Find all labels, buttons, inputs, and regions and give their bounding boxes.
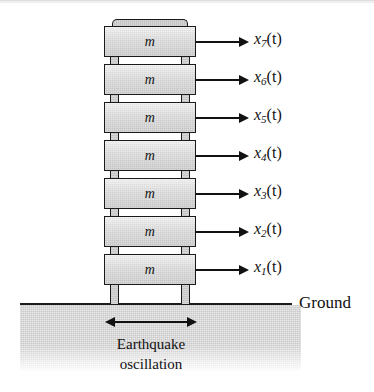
disp-arg-1: (t) <box>267 258 282 275</box>
ground-label: Ground <box>299 293 351 313</box>
column-right-base <box>181 285 190 304</box>
disp-arg-6: (t) <box>267 68 282 85</box>
mass-block-4: m <box>104 140 196 171</box>
arrow-head-3 <box>239 189 249 199</box>
ground-line <box>20 303 292 305</box>
disp-arg-2: (t) <box>267 220 282 237</box>
earthquake-oscillation-arrow <box>105 321 197 323</box>
roof-cap <box>112 19 188 26</box>
arrow-head-5 <box>239 113 249 123</box>
mass-label-1: m <box>105 261 195 277</box>
mass-label-4: m <box>105 147 195 163</box>
arrow-shaft-3 <box>196 193 241 195</box>
mass-block-5: m <box>104 102 196 133</box>
arrow-shaft-5 <box>196 117 241 119</box>
caption-line-1: Earthquake <box>76 334 226 354</box>
mass-label-3: m <box>105 185 195 201</box>
arrow-shaft-2 <box>196 231 241 233</box>
disp-arg-7: (t) <box>267 30 282 47</box>
displacement-label-1: x1(t) <box>254 258 282 277</box>
scan-edge-artifact <box>0 0 374 3</box>
earthquake-arrow-shaft <box>112 321 190 323</box>
arrow-shaft-1 <box>196 269 241 271</box>
mass-block-6: m <box>104 64 196 95</box>
arrow-head-2 <box>239 227 249 237</box>
arrow-shaft-6 <box>196 79 241 81</box>
arrow-head-1 <box>239 265 249 275</box>
disp-arg-4: (t) <box>267 144 282 161</box>
disp-arg-3: (t) <box>267 182 282 199</box>
displacement-label-2: x2(t) <box>254 220 282 239</box>
mass-block-2: m <box>104 216 196 247</box>
arrow-head-7 <box>239 37 249 47</box>
arrow-head-6 <box>239 75 249 85</box>
arrow-head-4 <box>239 151 249 161</box>
earthquake-building-diagram: Ground m m m <box>0 0 374 392</box>
displacement-label-7: x7(t) <box>254 30 282 49</box>
mass-block-3: m <box>104 178 196 209</box>
mass-label-6: m <box>105 71 195 87</box>
earthquake-oscillation-caption: Earthquake oscillation <box>76 334 226 374</box>
displacement-label-3: x3(t) <box>254 182 282 201</box>
mass-label-5: m <box>105 109 195 125</box>
arrow-shaft-4 <box>196 155 241 157</box>
mass-block-7: m <box>104 26 196 57</box>
displacement-label-6: x6(t) <box>254 68 282 87</box>
displacement-label-5: x5(t) <box>254 106 282 125</box>
mass-block-1: m <box>104 254 196 285</box>
displacement-label-4: x4(t) <box>254 144 282 163</box>
arrow-head-right-icon <box>187 317 197 327</box>
arrow-shaft-7 <box>196 41 241 43</box>
mass-label-2: m <box>105 223 195 239</box>
disp-arg-5: (t) <box>267 106 282 123</box>
mass-label-7: m <box>105 33 195 49</box>
column-left-base <box>110 285 119 304</box>
caption-line-2: oscillation <box>76 354 226 374</box>
